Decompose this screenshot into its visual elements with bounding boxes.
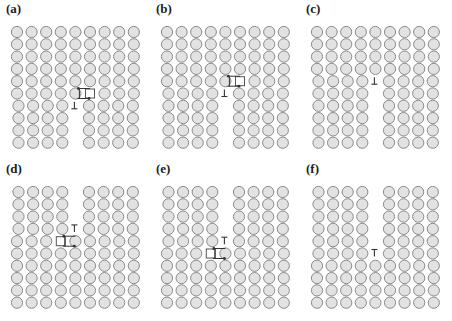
atom [428,51,439,62]
atom [98,186,109,197]
atom [192,88,203,99]
atom [11,76,22,87]
atom [57,125,68,136]
atom [41,260,52,271]
atom [384,260,395,271]
atom [163,113,174,124]
atom [26,39,37,50]
atom [264,26,275,37]
atom [233,223,244,234]
atom [311,26,322,37]
atom [328,211,339,222]
atom [249,26,260,37]
atom [414,285,425,296]
atom [399,26,410,37]
atom [311,297,322,308]
atom [328,125,339,136]
atom [207,137,218,148]
atom [128,248,139,259]
atom [178,186,189,197]
atom [113,113,124,124]
atom [383,88,394,99]
atom [41,51,52,62]
atom [27,211,38,222]
atom [220,260,231,271]
atom [328,248,339,259]
atom [70,297,81,308]
atom [370,297,381,308]
atom [84,260,95,271]
atom [234,39,245,50]
atom [234,26,245,37]
atom [83,211,94,222]
atom [113,125,124,136]
atom [233,113,244,124]
atom [313,248,324,259]
atom [128,63,139,74]
atom [205,51,216,62]
atom [205,260,216,271]
atom [384,297,395,308]
atom [70,236,81,247]
atom [249,39,260,50]
atom [83,137,94,148]
atom [399,297,410,308]
atom [176,76,187,87]
atom [278,297,289,308]
atom [11,297,22,308]
atom [278,285,289,296]
atom [413,88,424,99]
atom [233,137,244,148]
atom [357,88,368,99]
arrow-head-icon [223,257,226,260]
atom [205,285,216,296]
atom [277,223,288,234]
atom [191,76,202,87]
atom-lattice [0,160,150,320]
atom [341,39,352,50]
atom [398,211,409,222]
atom [98,199,109,210]
atom [128,26,139,37]
atom [383,100,394,111]
atom [342,113,353,124]
atom [263,125,274,136]
atom [341,26,352,37]
vacancy-square-icon [56,237,65,246]
atom [263,199,274,210]
atom [249,248,260,259]
atom [83,223,94,234]
atom [114,273,125,284]
atom [191,248,202,259]
atom [326,273,337,284]
atom [357,199,368,210]
atom [427,137,438,148]
atom [263,88,274,99]
atom [84,51,95,62]
atom [13,137,24,148]
atom [248,186,259,197]
atom [249,76,260,87]
atom [264,63,275,74]
atom [207,223,218,234]
atom [328,236,339,247]
atom [427,211,438,222]
atom [161,273,172,284]
atom [383,199,394,210]
atom [311,63,322,74]
atom [178,100,189,111]
atom [114,285,125,296]
edge-dislocation-perp-icon [71,102,77,109]
atom [176,273,187,284]
atom-lattice [150,160,300,320]
atom [328,88,339,99]
edge-dislocation-perp-icon [221,90,227,97]
atom [205,39,216,50]
atom [27,125,38,136]
atom [84,26,95,37]
atom [220,285,231,296]
atom [163,137,174,148]
atom [399,260,410,271]
atom [83,100,94,111]
atom [313,113,324,124]
